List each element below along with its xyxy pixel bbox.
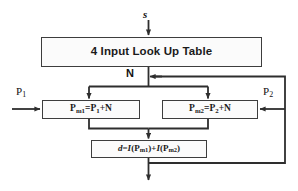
- node-pm1-box[interactable]: Pm1=P1+N: [42, 100, 140, 119]
- flowchart-connectors: [0, 0, 298, 191]
- label-n: N: [126, 68, 134, 79]
- d-sub-1: m1: [140, 146, 149, 153]
- node-lut-box[interactable]: 4 Input Look Up Table: [41, 37, 262, 67]
- d-close-2: ): [177, 143, 180, 153]
- pm2-plus-n: +N: [219, 103, 231, 113]
- node-d-box[interactable]: d=I(Pm1)+I(Pm2): [91, 140, 207, 158]
- label-p2: P2: [263, 86, 273, 99]
- pm1-plus-n: +N: [100, 103, 112, 113]
- node-lut-label: 4 Input Look Up Table: [91, 46, 212, 58]
- label-p1: P1: [16, 86, 26, 99]
- pm1-sub: m1: [76, 107, 85, 114]
- flowchart-diagram: s 4 Input Look Up Table N P1 P2 Pm1=P1+N…: [0, 0, 298, 191]
- node-pm2-formula: Pm2=P2+N: [189, 104, 231, 114]
- label-s: s: [143, 9, 147, 20]
- node-pm1-formula: Pm1=P1+N: [70, 104, 112, 114]
- label-p1-sub: 1: [22, 90, 26, 99]
- pm2-sub: m2: [195, 107, 204, 114]
- d-sub-2: m2: [168, 146, 177, 153]
- line-pm1-to-merge: [89, 119, 149, 129]
- line-pm2-to-merge: [149, 119, 209, 129]
- label-p2-sub: 2: [269, 90, 273, 99]
- node-pm2-box[interactable]: Pm2=P2+N: [162, 100, 258, 119]
- node-d-formula: d=I(Pm1)+I(Pm2): [118, 144, 180, 154]
